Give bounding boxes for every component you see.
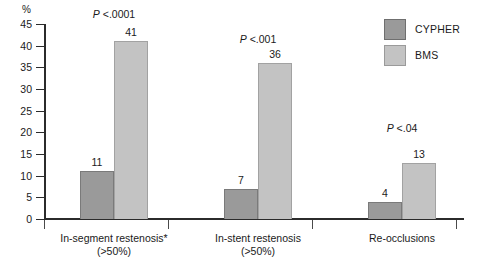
category-label: Re-occlusions [322, 232, 482, 245]
pvalue-text: <.0001 [100, 8, 135, 20]
pvalue-text: <.001 [247, 33, 277, 45]
pvalue-symbol: P [387, 122, 394, 134]
bar-cypher-0 [80, 171, 114, 219]
bar-cypher-2 [368, 202, 402, 219]
legend-label-bms: BMS [415, 50, 438, 61]
pvalue-annotation: P <.0001 [54, 8, 174, 20]
pvalue-symbol: P [93, 8, 100, 20]
category-label-line2: (>50%) [34, 245, 194, 258]
bar-value-label: 13 [394, 149, 444, 160]
legend-swatch-bms [384, 45, 406, 66]
bar-cypher-1 [224, 189, 258, 219]
category-label: In-stent restenosis(>50%) [178, 232, 338, 258]
category-label-line2: (>50%) [178, 245, 338, 258]
category-label: In-segment restenosis*(>50%) [34, 232, 194, 258]
category-label-line1: Re-occlusions [322, 232, 482, 245]
legend-label-cypher: CYPHER [415, 24, 460, 35]
bar-bms-1 [258, 63, 292, 219]
bar-value-label: 36 [250, 49, 300, 60]
legend-swatch-cypher [384, 19, 406, 40]
pvalue-text: <.04 [394, 122, 418, 134]
pvalue-annotation: P <.04 [342, 122, 462, 134]
pvalue-annotation: P <.001 [198, 33, 318, 45]
bar-bms-2 [402, 163, 436, 219]
category-label-line1: In-stent restenosis [178, 232, 338, 245]
bar-bms-0 [114, 41, 148, 219]
bar-chart: % 051015202530354045 1141736413 P <.0001… [0, 0, 482, 266]
category-label-line1: In-segment restenosis* [34, 232, 194, 245]
pvalue-symbol: P [240, 33, 247, 45]
bar-value-label: 41 [106, 27, 156, 38]
